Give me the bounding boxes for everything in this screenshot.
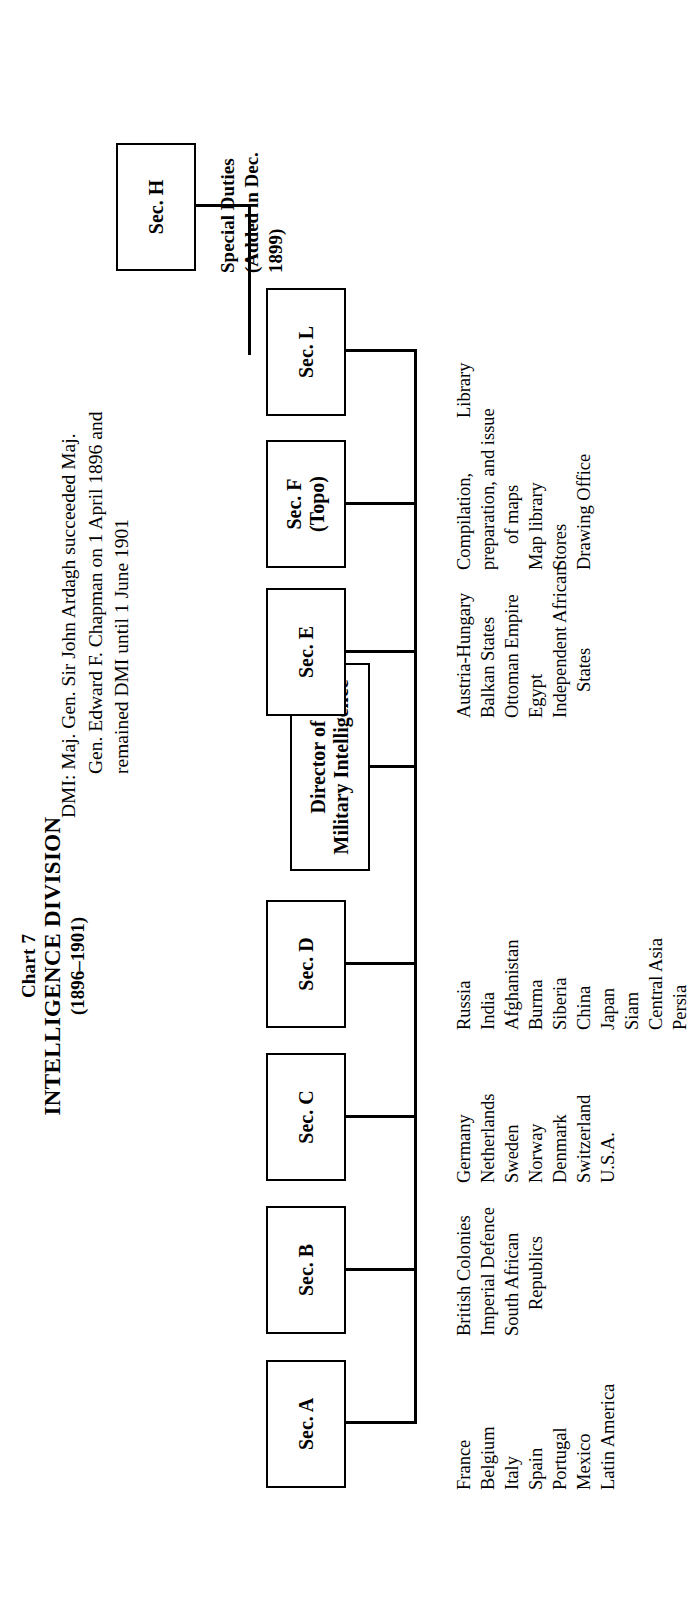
list-item: (Added in Dec. xyxy=(240,73,264,273)
list-item: India xyxy=(476,880,500,1030)
list-item: Burma xyxy=(524,880,548,1030)
connector-stem-sec-l xyxy=(345,349,417,352)
sublist-sec-c: Germany Netherlands Sweden Norway Denmar… xyxy=(452,1033,620,1183)
list-item: Sweden xyxy=(500,1033,524,1183)
dmi-note-line-3: remained DMI until 1 June 1901 xyxy=(109,198,136,818)
list-item: France xyxy=(452,1340,476,1490)
list-item: of maps xyxy=(500,370,524,570)
list-item: Belgium xyxy=(476,1340,500,1490)
list-item: South African xyxy=(500,1176,524,1336)
dmi-note-line-1: DMI: Maj. Gen. Sir John Ardagh succeeded… xyxy=(56,198,83,818)
chart-number: Chart 7 xyxy=(18,736,40,1196)
node-sec-f[interactable]: Sec. F (Topo) xyxy=(266,440,346,568)
connector-stem-sec-b xyxy=(345,1268,417,1271)
node-sec-c[interactable]: Sec. C xyxy=(266,1053,346,1181)
sublist-sec-d: Russia India Afghanistan Burma Siberia C… xyxy=(452,880,691,1030)
sec-f-sublabel: (Topo) xyxy=(306,476,329,532)
list-item: Portugal xyxy=(548,1340,572,1490)
connector-stem-sec-f xyxy=(345,502,417,505)
list-item: Drawing Office xyxy=(572,370,596,570)
node-sec-b[interactable]: Sec. B xyxy=(266,1206,346,1334)
sec-h-label: Sec. H xyxy=(145,180,168,234)
sublist-sec-a: France Belgium Italy Spain Portugal Mexi… xyxy=(452,1340,620,1490)
list-item: U.S.A. xyxy=(596,1033,620,1183)
connector-stem-sec-d xyxy=(345,962,417,965)
sec-l-label: Sec. L xyxy=(295,326,318,378)
list-item: Imperial Defence xyxy=(476,1176,500,1336)
node-sec-e[interactable]: Sec. E xyxy=(266,588,346,716)
connector-stem-sec-c xyxy=(345,1115,417,1118)
sec-d-label: Sec. D xyxy=(295,937,318,990)
list-item: Switzerland xyxy=(572,1033,596,1183)
list-item: Stores xyxy=(548,370,572,570)
node-sec-d[interactable]: Sec. D xyxy=(266,900,346,1028)
list-item: Italy xyxy=(500,1340,524,1490)
list-item: Mexico xyxy=(572,1340,596,1490)
list-item: Afghanistan xyxy=(500,880,524,1030)
list-item: Germany xyxy=(452,1033,476,1183)
node-sec-a[interactable]: Sec. A xyxy=(266,1360,346,1488)
sublist-sec-l: Library xyxy=(452,268,476,418)
sec-b-label: Sec. B xyxy=(295,1244,318,1296)
sec-e-label: Sec. E xyxy=(295,626,318,678)
dmi-note: DMI: Maj. Gen. Sir John Ardagh succeeded… xyxy=(56,198,136,818)
list-item: preparation, and issue xyxy=(476,370,500,570)
list-item: Netherlands xyxy=(476,1033,500,1183)
list-item: Russia xyxy=(452,880,476,1030)
list-item: Spain xyxy=(524,1340,548,1490)
list-item: China xyxy=(572,880,596,1030)
sublist-sec-h: Special Duties (Added in Dec. 1899) xyxy=(216,73,287,273)
node-sec-h[interactable]: Sec. H xyxy=(116,143,196,271)
list-item: Special Duties xyxy=(216,73,240,273)
list-item: Library xyxy=(452,268,476,418)
list-item: Norway xyxy=(524,1033,548,1183)
list-item: 1899) xyxy=(264,73,288,273)
sublist-sec-b: British Colonies Imperial Defence South … xyxy=(452,1176,548,1336)
list-item: Map library xyxy=(524,370,548,570)
list-item: Latin America xyxy=(596,1340,620,1490)
list-item: Siberia xyxy=(548,880,572,1030)
list-item: British Colonies xyxy=(452,1176,476,1336)
list-item: Central Asia xyxy=(644,880,668,1030)
sec-a-label: Sec. A xyxy=(295,1398,318,1450)
connector-root-stem xyxy=(370,766,416,769)
list-item: Japan xyxy=(596,880,620,1030)
list-item: Siam xyxy=(620,880,644,1030)
list-item: Denmark xyxy=(548,1033,572,1183)
node-sec-l[interactable]: Sec. L xyxy=(266,288,346,416)
sec-c-label: Sec. C xyxy=(295,1090,318,1143)
connector-stem-sec-a xyxy=(345,1421,417,1424)
connector-stem-sec-e xyxy=(345,650,417,653)
dmi-note-line-2: Gen. Edward F. Chapman on 1 April 1896 a… xyxy=(83,198,110,818)
connector-main-spine xyxy=(414,352,417,1424)
sec-f-label: Sec. F xyxy=(283,476,306,532)
list-item: Persia xyxy=(668,880,691,1030)
list-item: Republics xyxy=(524,1176,548,1336)
